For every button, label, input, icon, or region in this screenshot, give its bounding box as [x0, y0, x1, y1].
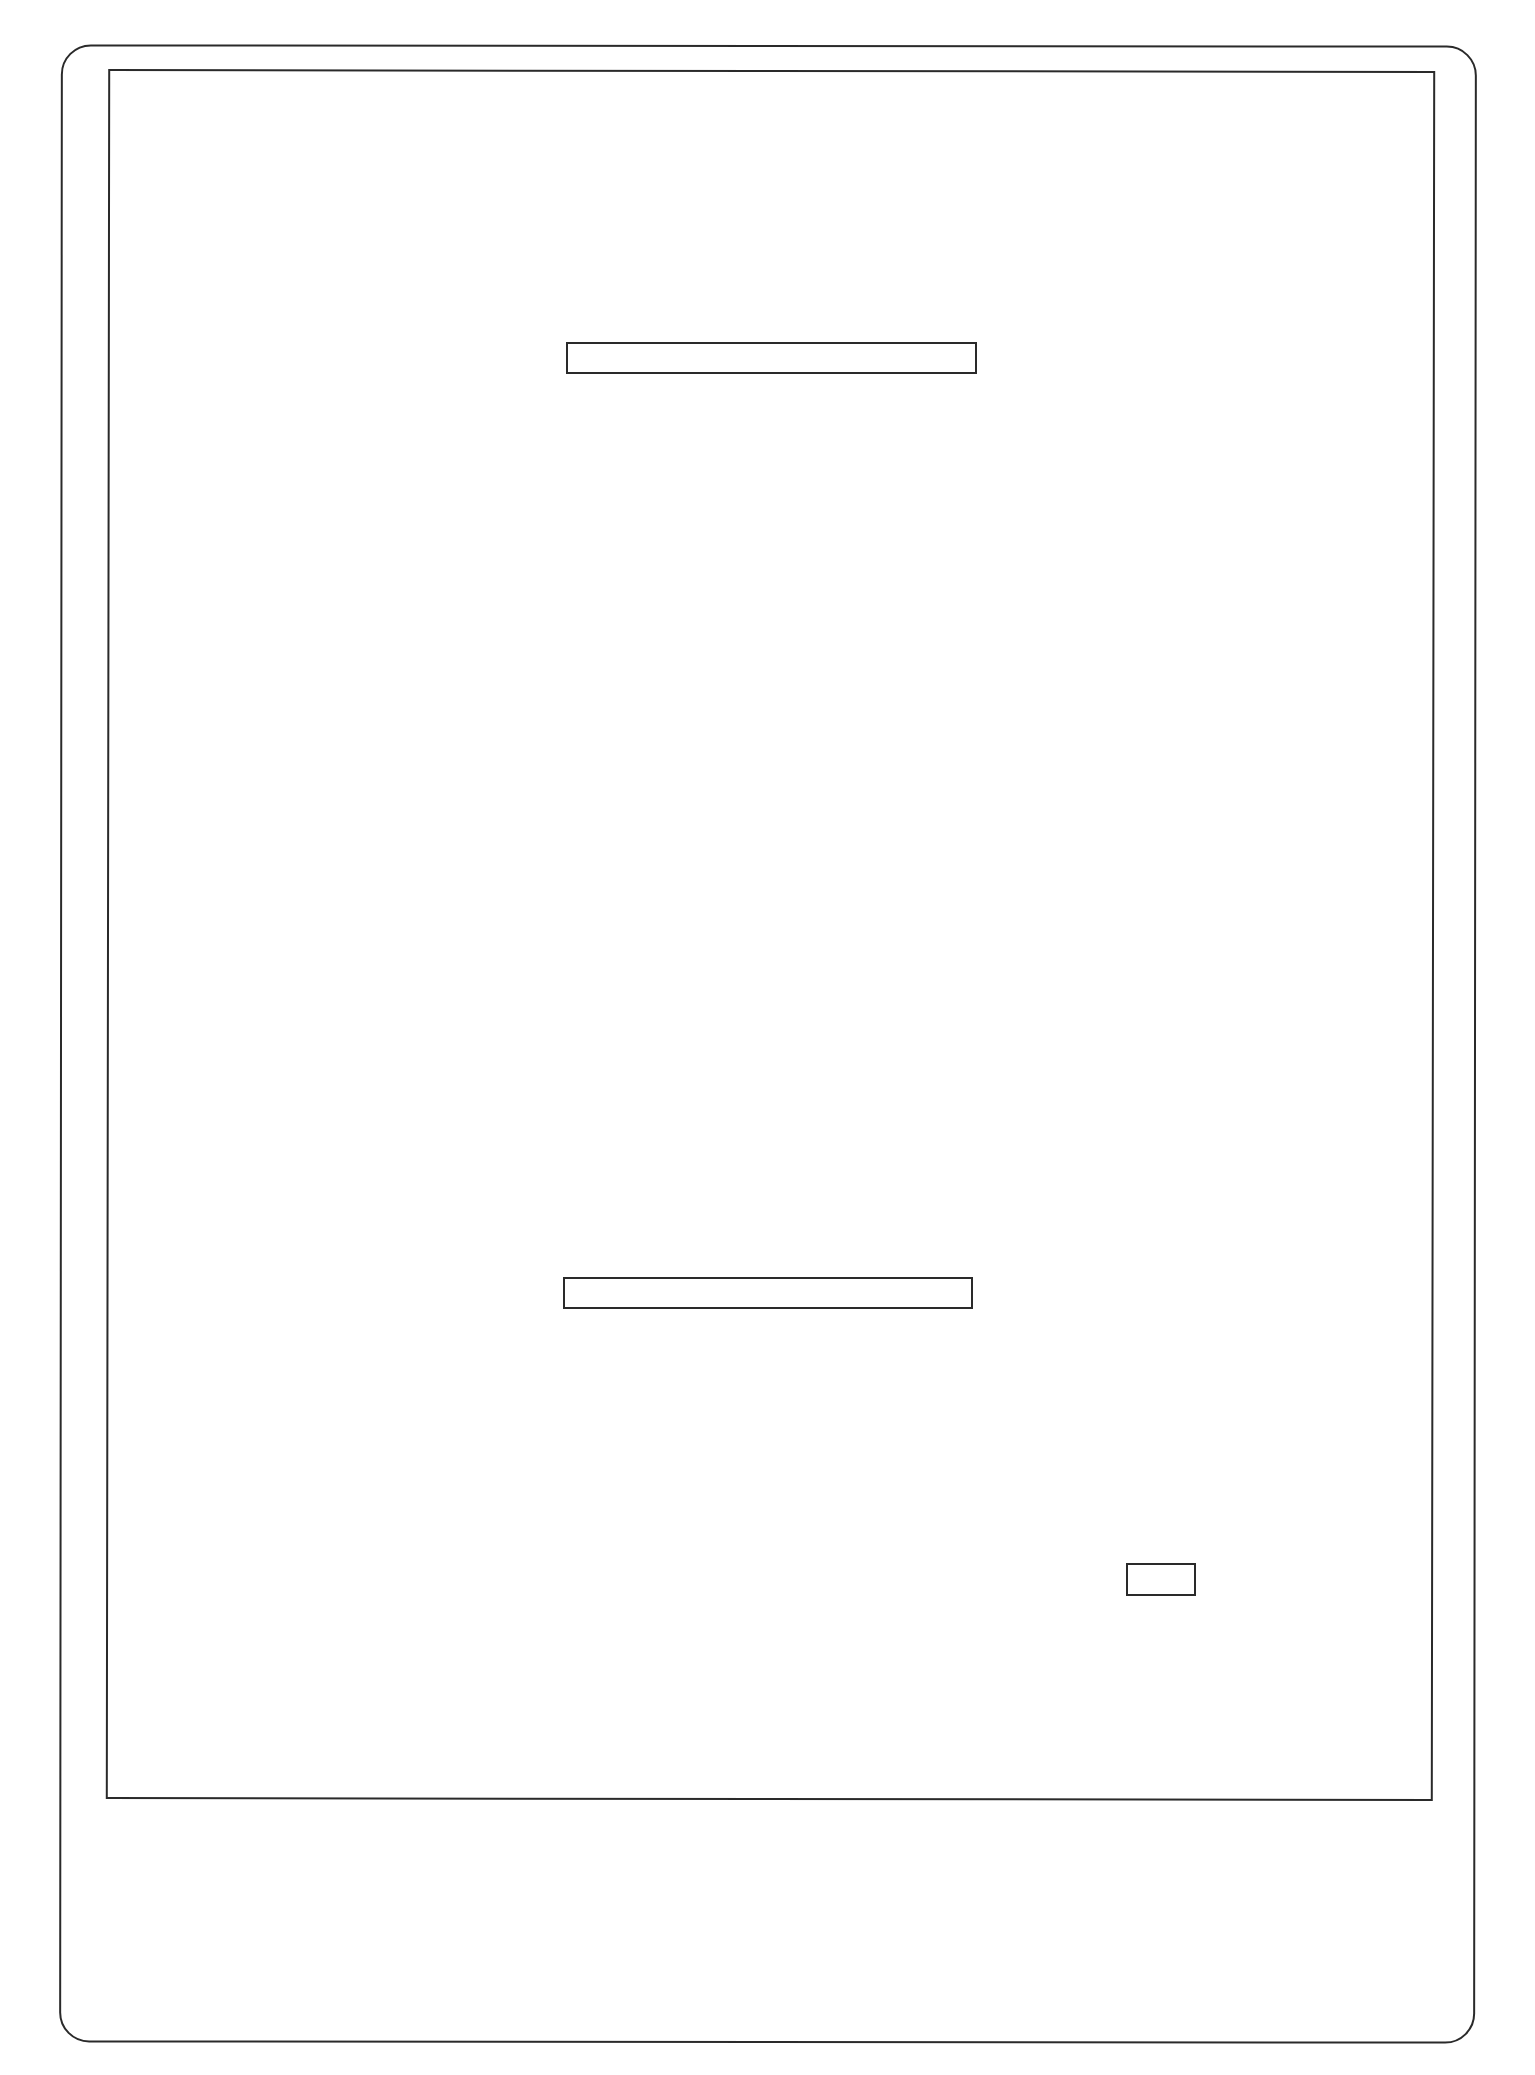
device-screen [106, 69, 1435, 1801]
button-placeholder[interactable] [1126, 1563, 1196, 1596]
bottom-field-placeholder[interactable] [563, 1277, 973, 1309]
top-field-placeholder[interactable] [566, 342, 977, 374]
